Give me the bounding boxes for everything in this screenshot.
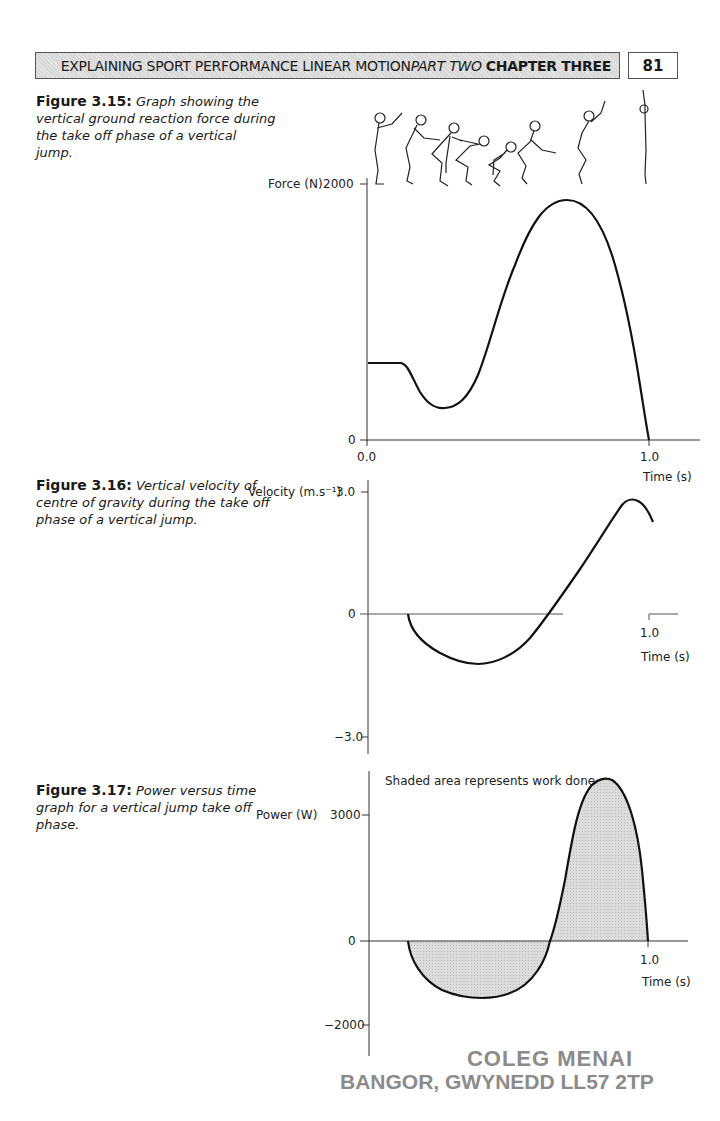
svg-text:1.0: 1.0 xyxy=(640,450,659,464)
shaded-area-note: Shaded area represents work done xyxy=(385,774,595,788)
velocity-chart: Velocity (m.s⁻¹) 3.0 0 −3.0 1.0 Time (s) xyxy=(248,480,690,754)
force-y-label: Force (N) xyxy=(268,177,323,191)
svg-text:Time (s): Time (s) xyxy=(641,975,691,989)
svg-text:3000: 3000 xyxy=(330,808,361,822)
svg-text:0: 0 xyxy=(348,934,356,948)
stick-figures-illustration xyxy=(375,90,648,186)
svg-text:Time (s): Time (s) xyxy=(642,470,692,484)
svg-text:0.0: 0.0 xyxy=(357,450,376,464)
library-stamp: COLEG MENAI BANGOR, GWYNEDD LL57 2TP xyxy=(340,1046,720,1094)
svg-text:2000: 2000 xyxy=(323,177,354,191)
svg-text:−2000: −2000 xyxy=(324,1018,365,1032)
svg-text:1.0: 1.0 xyxy=(640,953,659,967)
work-shaded-area xyxy=(408,779,648,998)
svg-text:0: 0 xyxy=(348,433,356,447)
charts-canvas: Force (N) 2000 0 0.0 1.0 Time (s) Veloci… xyxy=(0,0,720,1121)
svg-text:3.0: 3.0 xyxy=(336,485,355,499)
power-chart: Power (W) 3000 0 −2000 1.0 Time (s) Shad… xyxy=(256,771,691,1056)
svg-text:−3.0: −3.0 xyxy=(334,730,363,744)
force-chart: Force (N) 2000 0 0.0 1.0 Time (s) xyxy=(268,177,700,484)
velocity-curve xyxy=(408,500,653,664)
power-y-label: Power (W) xyxy=(256,808,317,822)
svg-text:Time (s): Time (s) xyxy=(640,650,690,664)
svg-text:1.0: 1.0 xyxy=(640,626,659,640)
svg-text:0: 0 xyxy=(348,607,356,621)
velocity-y-label: Velocity (m.s⁻¹) xyxy=(248,485,341,499)
force-curve xyxy=(368,200,649,440)
